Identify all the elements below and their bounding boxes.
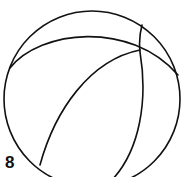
- ball-seam-horizontal: [10, 37, 178, 75]
- figure-label: 8: [5, 154, 14, 171]
- ball-seam-diagonal: [40, 50, 140, 165]
- beach-ball-drawing: [0, 0, 185, 177]
- ball-seam-vertical: [112, 25, 143, 177]
